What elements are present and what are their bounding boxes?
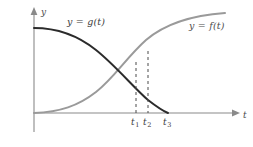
tick-label-t1-sub: 1: [135, 121, 139, 129]
function-graph-figure: y t y = g(t) y = f(t) t1 t2 t3: [0, 0, 253, 147]
tick-label-t2: t2: [143, 118, 151, 127]
curve-label-f: y = f(t): [189, 21, 225, 31]
curve-label-g: y = g(t): [67, 17, 105, 27]
tick-label-t1: t1: [131, 118, 139, 127]
y-axis-arrowhead: [31, 7, 38, 15]
tick-label-t3: t3: [163, 118, 171, 127]
y-axis-label: y: [41, 8, 46, 17]
tick-label-t3-sub: 3: [167, 121, 171, 129]
x-axis-label: t: [243, 111, 247, 120]
x-axis-arrowhead: [232, 110, 240, 117]
tick-label-t2-sub: 2: [147, 121, 151, 129]
